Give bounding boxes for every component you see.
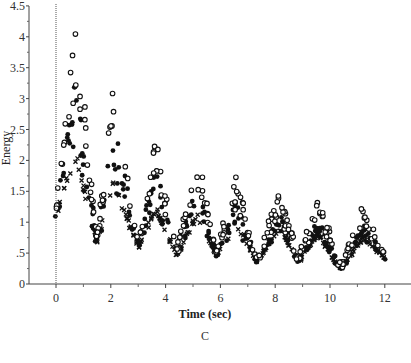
open-circle-point — [199, 195, 204, 200]
open-circle-point — [109, 124, 114, 129]
open-circle-point — [181, 223, 186, 228]
filled-circle-point — [165, 218, 170, 223]
open-circle-point — [148, 175, 153, 180]
filled-circle-point — [317, 229, 322, 234]
filled-circle-point — [240, 238, 245, 243]
filled-circle-point — [333, 254, 338, 259]
y-tick-label: 4.5 — [10, 0, 25, 13]
energy-time-scatter-chart: 0.511.522.533.544.5 024681012 Energy Tim… — [0, 0, 411, 363]
open-circle-point — [299, 244, 304, 249]
open-circle-point — [350, 243, 355, 248]
y-tick-label: 4 — [19, 30, 25, 44]
open-circle-point — [95, 230, 100, 235]
open-circle-point — [78, 94, 83, 99]
open-circle-point — [178, 235, 183, 240]
y-tick-label: 3 — [19, 92, 25, 106]
open-circle-point — [138, 230, 143, 235]
open-circle-point — [205, 201, 210, 206]
filled-circle-point — [71, 144, 76, 149]
x-tick-label: 10 — [324, 291, 336, 305]
filled-circle-point — [322, 240, 327, 245]
filled-circle-point — [105, 164, 110, 169]
open-circle-point — [294, 257, 299, 262]
open-circle-point — [73, 32, 78, 37]
x-mark-point — [77, 168, 81, 172]
open-circle-point — [189, 188, 194, 193]
open-circle-point — [262, 244, 267, 249]
filled-circle-point — [80, 173, 85, 178]
filled-circle-point — [183, 235, 188, 240]
filled-circle-point — [232, 221, 237, 226]
open-circle-point — [233, 200, 238, 205]
open-circle-point — [250, 248, 255, 253]
filled-circle-point — [355, 233, 360, 238]
x-mark-point — [73, 160, 77, 164]
open-circle-point — [286, 227, 291, 232]
open-circle-point — [110, 91, 115, 96]
open-circle-point — [84, 144, 89, 149]
open-circle-point — [273, 219, 278, 224]
open-circle-point — [359, 207, 364, 212]
x-mark-point — [163, 228, 167, 232]
open-circle-point — [63, 122, 68, 127]
open-circle-point — [188, 203, 193, 208]
open-circle-point — [123, 164, 128, 169]
open-circle-point — [238, 195, 243, 200]
filled-circle-point — [137, 240, 142, 245]
filled-circle-point — [115, 181, 120, 186]
filled-circle-point — [116, 141, 121, 146]
open-circle-point — [312, 218, 317, 223]
open-circle-point — [273, 213, 278, 218]
open-circle-point — [98, 216, 103, 221]
open-circle-point — [371, 227, 376, 232]
open-circle-point — [156, 147, 161, 152]
open-circle-point — [88, 190, 93, 195]
open-circle-point — [358, 226, 363, 231]
open-circle-point — [206, 212, 211, 217]
open-circle-point — [101, 192, 106, 197]
open-circle-point — [265, 230, 270, 235]
open-circle-point — [132, 223, 137, 228]
filled-circle-point — [121, 182, 126, 187]
x-axis-title: Time (sec) — [179, 307, 232, 321]
open-circle-point — [381, 250, 386, 255]
open-circle-point — [232, 185, 237, 190]
y-tick-label: .5 — [16, 246, 25, 260]
filled-circle-point — [279, 215, 284, 220]
filled-circle-point — [364, 240, 369, 245]
y-tick-label: 0 — [19, 277, 25, 291]
open-circle-point — [145, 196, 150, 201]
open-circle-point — [243, 217, 248, 222]
x-tick-label: 8 — [272, 291, 278, 305]
open-circle-point — [183, 212, 188, 217]
filled-circle-point — [240, 222, 245, 227]
open-circle-point — [78, 107, 83, 112]
open-circle-point — [59, 161, 64, 166]
x-mark-point — [196, 213, 200, 217]
open-circle-point — [222, 224, 227, 229]
open-circle-point — [135, 234, 140, 239]
filled-circle-point — [189, 212, 194, 217]
open-circle-point — [234, 189, 239, 194]
open-circle-point — [73, 83, 78, 88]
x-tick-label: 4 — [163, 291, 169, 305]
open-circle-point — [89, 197, 94, 202]
open-circle-point — [364, 224, 369, 229]
filled-circle-point — [125, 186, 130, 191]
open-circle-point — [208, 222, 213, 227]
open-circle-point — [71, 101, 76, 106]
open-circle-point — [61, 143, 66, 148]
filled-circle-point — [227, 231, 232, 236]
open-circle-point — [298, 249, 303, 254]
open-circle-point — [214, 248, 219, 253]
open-circle-point — [125, 176, 130, 181]
open-circle-point — [89, 182, 94, 187]
open-circle-point — [257, 253, 262, 258]
filled-circle-point — [58, 178, 63, 183]
open-circle-point — [151, 171, 156, 176]
open-circle-point — [266, 219, 271, 224]
x-mark-point — [68, 172, 72, 176]
open-circle-point — [276, 194, 281, 199]
open-circle-point — [247, 241, 252, 246]
open-circle-point — [68, 70, 73, 75]
